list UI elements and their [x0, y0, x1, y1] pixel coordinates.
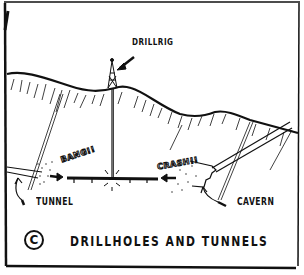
arrow-right-icon — [50, 173, 63, 181]
drillhole-connection — [67, 178, 158, 183]
drillrig-pointer-arrow — [117, 57, 134, 70]
arrow-left-icon — [161, 174, 176, 182]
drillrig-tower — [108, 59, 117, 181]
ground-surface — [7, 73, 298, 200]
drillrig-label: DRILLRIG — [132, 37, 174, 47]
caption-title: DRILLHOLES AND TUNNELS — [70, 233, 268, 249]
cavern — [190, 122, 292, 206]
tunnel-label: TUNNEL — [36, 196, 73, 208]
copyright-icon: C — [24, 230, 44, 250]
cavern-label: CAVERN — [237, 196, 274, 208]
